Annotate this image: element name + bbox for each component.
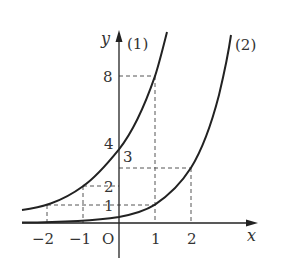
curve-2-label: (2) <box>235 36 256 54</box>
y-tick-8: 8 <box>103 68 113 86</box>
x-tick-1: 1 <box>151 230 161 248</box>
exponential-graph-figure: y x (1) (2) 8 4 3 2 1 −2 −1 O 1 2 <box>0 0 281 266</box>
y-axis-label: y <box>100 29 111 48</box>
y-tick-2: 2 <box>104 178 114 196</box>
curve-2 <box>22 35 231 223</box>
y-tick-1: 1 <box>104 197 114 215</box>
x-tick-neg1: −1 <box>69 230 91 248</box>
curve-1-label: (1) <box>127 35 148 53</box>
curve-1-smooth <box>22 32 167 210</box>
x-axis-label: x <box>247 226 256 245</box>
y-tick-4: 4 <box>104 135 114 153</box>
origin-label: O <box>102 230 114 248</box>
y-axis-arrow-icon <box>116 30 123 42</box>
x-tick-neg2: −2 <box>32 230 54 248</box>
x-tick-2: 2 <box>187 230 197 248</box>
graph-canvas: y x (1) (2) 8 4 3 2 1 −2 −1 O 1 2 <box>0 0 281 266</box>
y-tick-3: 3 <box>123 148 133 166</box>
